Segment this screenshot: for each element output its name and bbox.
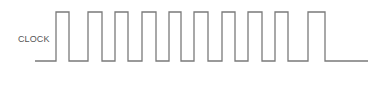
clock-waveform-path bbox=[35, 12, 368, 61]
clock-waveform bbox=[0, 0, 389, 104]
